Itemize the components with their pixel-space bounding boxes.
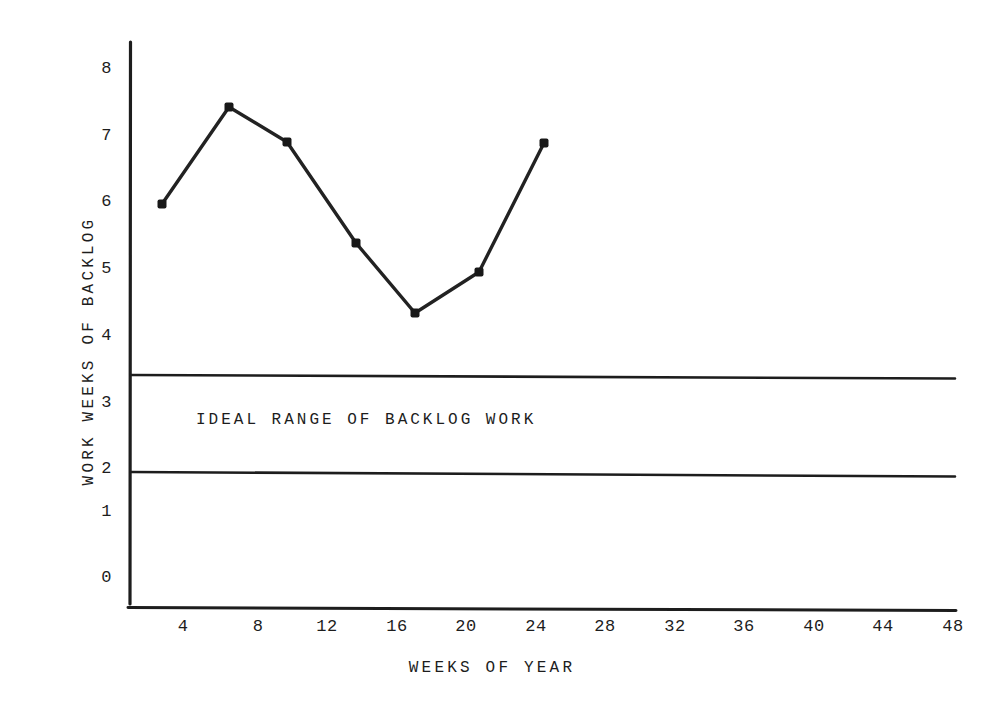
- y-tick-label-0: 0: [86, 568, 112, 587]
- backlog-series-line: [162, 107, 544, 313]
- x-tick-label-48: 48: [930, 617, 976, 636]
- data-point-marker: [225, 103, 234, 112]
- y-tick-label-8: 8: [86, 59, 112, 78]
- x-axis-title: WEEKS OF YEAR: [0, 659, 984, 677]
- backlog-series-markers: [158, 103, 549, 318]
- x-axis-line: [128, 608, 956, 611]
- y-axis-title: WORK WEEKS OF BACKLOG: [80, 201, 98, 501]
- ideal-range-band-label: IDEAL RANGE OF BACKLOG WORK: [196, 411, 536, 429]
- x-tick-label-32: 32: [652, 617, 698, 636]
- data-point-marker: [540, 139, 549, 148]
- data-point-marker: [352, 239, 361, 248]
- data-point-marker: [283, 138, 292, 147]
- x-tick-label-16: 16: [374, 617, 420, 636]
- chart-plot-area: [0, 0, 984, 715]
- ideal-range-upper-line: [131, 375, 955, 379]
- x-tick-label-4: 4: [160, 617, 206, 636]
- chart-page: 8 7 6 5 4 3 2 1 0 4 8 12 16 20 24 28 32 …: [0, 0, 984, 715]
- y-tick-label-1: 1: [86, 502, 112, 521]
- x-tick-label-44: 44: [860, 617, 906, 636]
- y-axis-line: [130, 42, 131, 604]
- y-tick-label-7: 7: [86, 126, 112, 145]
- x-tick-label-40: 40: [791, 617, 837, 636]
- data-point-marker: [411, 309, 420, 318]
- x-tick-label-8: 8: [235, 617, 281, 636]
- x-tick-label-12: 12: [304, 617, 350, 636]
- ideal-range-lower-line: [131, 472, 955, 477]
- x-tick-label-20: 20: [443, 617, 489, 636]
- x-tick-label-36: 36: [721, 617, 767, 636]
- x-tick-label-24: 24: [513, 617, 559, 636]
- x-tick-label-28: 28: [582, 617, 628, 636]
- data-point-marker: [475, 268, 484, 277]
- data-point-marker: [158, 200, 167, 209]
